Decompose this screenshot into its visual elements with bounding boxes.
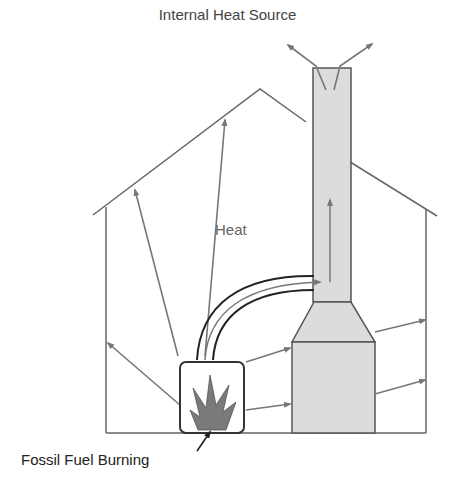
heat-diagram xyxy=(0,0,455,488)
fuel-pointer-arrow xyxy=(197,432,210,451)
chimney xyxy=(292,68,375,433)
fossil-fuel-label: Fossil Fuel Burning xyxy=(21,451,149,468)
house-outline xyxy=(93,89,437,433)
heat-label: Heat xyxy=(215,221,247,238)
heat-radiation-arrows xyxy=(108,120,425,410)
